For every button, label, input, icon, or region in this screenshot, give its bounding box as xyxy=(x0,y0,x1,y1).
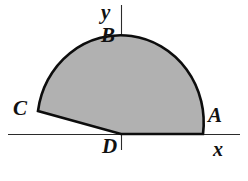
point-label-d: D xyxy=(102,136,117,157)
point-label-b: B xyxy=(101,25,115,46)
x-axis-label: x xyxy=(213,139,223,159)
point-label-c: C xyxy=(13,98,27,119)
sector-diagram-svg xyxy=(0,0,248,181)
figure-root: y B C A D x xyxy=(0,0,248,181)
point-label-a: A xyxy=(208,105,222,126)
y-axis-label: y xyxy=(101,2,110,23)
